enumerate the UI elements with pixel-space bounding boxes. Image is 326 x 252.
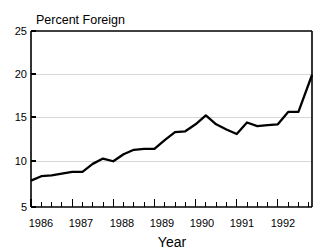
xtick-label-1987: 1987 [69,217,93,229]
y-tick-labels: 25 20 15 10 5 [15,25,27,213]
x-axis-title: Year [158,234,187,250]
x-tick-labels: 1986 1987 1988 1989 1990 1991 1992 [29,217,295,229]
xtick-label-1991: 1991 [230,217,254,229]
plot-area-background [31,31,312,207]
ytick-label-5: 5 [21,201,27,213]
ytick-label-10: 10 [15,155,27,167]
ytick-label-15: 15 [15,111,27,123]
ytick-label-20: 20 [15,68,27,80]
ytick-label-25: 25 [15,25,27,37]
chart-title: Percent Foreign [36,13,125,27]
percent-foreign-line-chart: 25 20 15 10 5 1986 1987 1988 1989 1990 1… [0,0,326,252]
xtick-label-1986: 1986 [29,217,53,229]
chart-figure: 25 20 15 10 5 1986 1987 1988 1989 1990 1… [0,0,326,252]
xtick-label-1992: 1992 [271,217,295,229]
xtick-label-1988: 1988 [110,217,134,229]
xtick-label-1990: 1990 [190,217,214,229]
xtick-label-1989: 1989 [150,217,174,229]
